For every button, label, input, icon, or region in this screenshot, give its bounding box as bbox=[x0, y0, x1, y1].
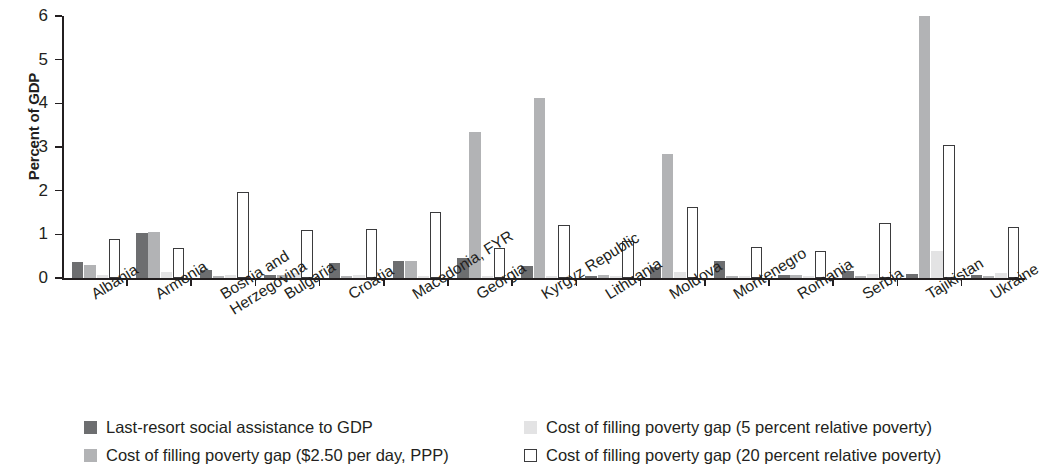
legend-label: Last-resort social assistance to GDP bbox=[106, 418, 373, 437]
legend-label: Cost of filling poverty gap ($2.50 per d… bbox=[106, 446, 449, 465]
bar-group bbox=[832, 16, 896, 278]
bar-group bbox=[704, 16, 768, 278]
y-tick-5 bbox=[55, 59, 62, 61]
y-tick-label: 5 bbox=[22, 51, 48, 68]
legend-item[interactable]: Cost of filling poverty gap (5 percent r… bbox=[524, 418, 932, 437]
legend-swatch-icon bbox=[524, 421, 537, 434]
chart-legend: Last-resort social assistance to GDPCost… bbox=[84, 418, 1034, 473]
y-tick-label: 2 bbox=[22, 182, 48, 199]
bar-group bbox=[190, 16, 254, 278]
bar bbox=[405, 261, 417, 278]
bar bbox=[983, 276, 995, 278]
plot-area: 0123456 bbox=[62, 16, 1025, 278]
bar-group bbox=[62, 16, 126, 278]
y-tick-3 bbox=[55, 146, 62, 148]
y-tick-label: 4 bbox=[22, 94, 48, 111]
bar bbox=[662, 154, 674, 278]
legend-swatch-icon bbox=[84, 421, 97, 434]
bar-group bbox=[126, 16, 190, 278]
bar bbox=[598, 275, 610, 278]
bar bbox=[906, 274, 918, 278]
bar bbox=[931, 251, 943, 278]
bar bbox=[84, 265, 96, 278]
bar bbox=[790, 275, 802, 278]
bar-group bbox=[768, 16, 832, 278]
bar-group bbox=[255, 16, 319, 278]
bar-group bbox=[640, 16, 704, 278]
y-tick-label: 1 bbox=[22, 225, 48, 242]
bar bbox=[687, 207, 699, 278]
bar-group bbox=[961, 16, 1025, 278]
y-tick-label: 3 bbox=[22, 138, 48, 155]
y-tick-4 bbox=[55, 103, 62, 105]
bar bbox=[726, 276, 738, 278]
y-tick-0 bbox=[55, 277, 62, 279]
bar-group bbox=[897, 16, 961, 278]
legend-label: Cost of filling poverty gap (20 percent … bbox=[546, 446, 941, 465]
bar bbox=[237, 192, 249, 278]
y-tick-2 bbox=[55, 190, 62, 192]
bar bbox=[919, 16, 931, 278]
y-tick-6 bbox=[55, 15, 62, 17]
legend-swatch-icon bbox=[84, 449, 97, 462]
legend-label: Cost of filling poverty gap (5 percent r… bbox=[546, 418, 932, 437]
y-tick-1 bbox=[55, 234, 62, 236]
legend-swatch-icon bbox=[524, 449, 537, 462]
bar-group bbox=[383, 16, 447, 278]
y-tick-label: 6 bbox=[22, 7, 48, 24]
bar bbox=[213, 276, 225, 278]
legend-item[interactable]: Last-resort social assistance to GDP bbox=[84, 418, 373, 437]
bar bbox=[534, 98, 546, 278]
legend-item[interactable]: Cost of filling poverty gap (20 percent … bbox=[524, 446, 941, 465]
bar-group bbox=[511, 16, 575, 278]
y-tick-label: 0 bbox=[22, 269, 48, 286]
bar bbox=[943, 145, 955, 278]
bar-group bbox=[319, 16, 383, 278]
legend-item[interactable]: Cost of filling poverty gap ($2.50 per d… bbox=[84, 446, 449, 465]
bar bbox=[341, 276, 353, 278]
bar bbox=[72, 262, 84, 278]
bar bbox=[148, 232, 160, 278]
bar bbox=[855, 276, 867, 278]
